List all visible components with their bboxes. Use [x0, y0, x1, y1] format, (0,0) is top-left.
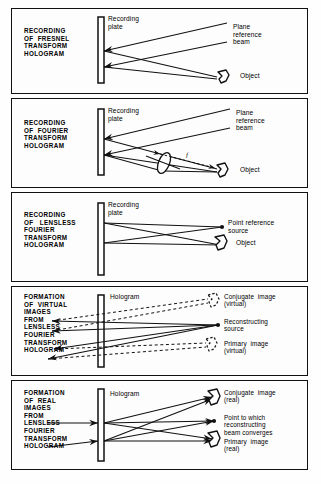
outgoing-rays	[104, 397, 214, 441]
panel-virtual-image-formation: FORMATION OF VIRTUAL IMAGES FROM LENSLES…	[11, 286, 308, 376]
reconstructing-source-label: Reconstructing source	[224, 318, 268, 333]
recording-plate	[98, 17, 104, 83]
convergence-point-label: Point to which reconstructing beam conve…	[224, 414, 273, 436]
point-reference-source-dot	[220, 225, 224, 229]
hologram-label: Hologram	[110, 293, 139, 301]
object-label: Object	[236, 239, 256, 247]
recording-plate-label: Recording plate	[108, 107, 139, 122]
primary-image-virtual-label: Primary image (virtual)	[224, 340, 268, 355]
primary-image-real-label: Primary image (real)	[224, 438, 268, 453]
conjugate-image-virtual-blob	[208, 293, 219, 307]
panel-2-caption: RECORDING OF FOURIER TRANSFORM HOLOGRAM	[24, 119, 68, 149]
hologram-plate	[98, 295, 104, 367]
panel-5-caption: FORMATION OF REAL IMAGES FROM LENSLESS F…	[24, 389, 67, 450]
plane-reference-beam-label: Plane reference beam	[233, 23, 262, 46]
panel-3-caption: RECORDING OF LENSLESS FOURIER TRANSFORM …	[24, 211, 76, 249]
point-reference-source-label: Point reference source	[228, 219, 274, 234]
recording-plate	[98, 203, 104, 275]
panel-lensless-fourier-recording: RECORDING OF LENSLESS FOURIER TRANSFORM …	[11, 192, 308, 282]
primary-image-virtual-blob	[206, 337, 217, 351]
virtual-ray-extensions	[48, 299, 208, 359]
reconstructed-rays	[48, 321, 218, 359]
crossed-beams	[104, 223, 222, 245]
panel-real-image-formation: FORMATION OF REAL IMAGES FROM LENSLESS F…	[11, 380, 308, 470]
object-label: Object	[240, 166, 260, 174]
panel-1-caption: RECORDING OF FRESNEL TRANSFORM HOLOGRAM	[24, 27, 69, 57]
hologram-plate	[98, 389, 104, 461]
object-blob	[218, 70, 229, 83]
plane-reference-beam-label: Plane reference beam	[236, 109, 265, 132]
recording-plate-label: Recording plate	[108, 201, 139, 216]
convergence-point-dot	[212, 419, 216, 423]
object-label: Object	[240, 72, 260, 80]
recording-plate	[98, 109, 104, 175]
object-blob	[215, 235, 227, 250]
conjugate-image-real-label: Conjugate image (real)	[224, 389, 276, 404]
conjugate-image-virtual-label: Conjugate image (virtual)	[224, 293, 276, 308]
hologram-label: Hologram	[110, 390, 139, 398]
panel-fresnel-recording: RECORDING OF FRESNEL TRANSFORM HOLOGRAM …	[11, 8, 308, 94]
panel-fourier-recording: f RECORDING OF FOURIER TRANSFORM HOLOGRA…	[11, 98, 308, 188]
recording-plate-label: Recording plate	[108, 15, 139, 30]
panel-4-caption: FORMATION OF VIRTUAL IMAGES FROM LENSLES…	[24, 293, 67, 354]
object-blob	[217, 163, 228, 177]
focal-length-text: f	[186, 151, 189, 159]
holography-figure: RECORDING OF FRESNEL TRANSFORM HOLOGRAM …	[0, 0, 321, 484]
